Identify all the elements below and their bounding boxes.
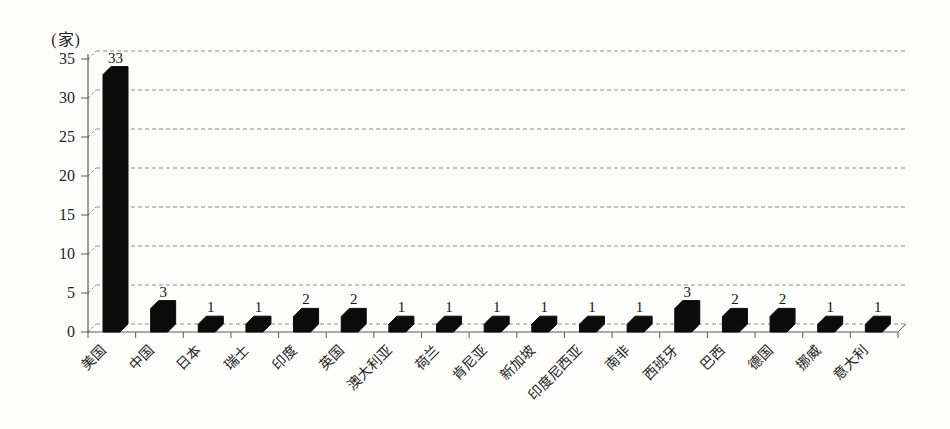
- bar-value-label: 1: [636, 299, 644, 315]
- bar-德国: [770, 308, 795, 332]
- bar-印度: [294, 308, 319, 332]
- bar-value-label: 1: [207, 299, 215, 315]
- x-axis-label: 英国: [316, 342, 347, 373]
- grid-depth-connector: [88, 207, 96, 215]
- x-axis-label: 澳大利亚: [345, 343, 395, 393]
- bar-value-label: 1: [588, 299, 596, 315]
- bar-意大利: [865, 316, 890, 332]
- x-axis-label: 日本: [174, 343, 204, 373]
- bar-value-label: 3: [159, 284, 167, 300]
- chart: 0510152025303533美国3中国1日本1瑞士2印度2英国1澳大利亚1荷…: [0, 0, 950, 429]
- grid-depth-connector: [88, 168, 96, 176]
- floor-right-edge: [898, 324, 906, 332]
- bar-value-label: 1: [255, 299, 263, 315]
- x-axis-label: 荷兰: [412, 343, 442, 373]
- y-axis-label: 0: [67, 323, 75, 340]
- x-axis-label: 美国: [79, 343, 109, 373]
- x-axis-label: 巴西: [698, 343, 728, 373]
- bar-value-label: 1: [398, 299, 406, 315]
- x-axis-label: 德国: [746, 343, 776, 373]
- y-axis-label: 20: [59, 167, 75, 184]
- grid-depth-connector: [88, 285, 96, 293]
- bar-value-label: 3: [684, 284, 692, 300]
- x-axis-label: 新加坡: [497, 343, 537, 383]
- y-axis-label: 30: [59, 89, 75, 106]
- bar-value-label: 2: [302, 291, 310, 307]
- grid-depth-connector: [88, 246, 96, 254]
- bar-印度尼西亚: [579, 316, 604, 332]
- bar-value-label: 1: [826, 299, 834, 315]
- bar-瑞士: [246, 316, 271, 332]
- bar-巴西: [722, 308, 747, 332]
- bar-中国: [151, 301, 176, 332]
- x-axis-label: 肯尼亚: [450, 343, 490, 383]
- bar-chart-canvas: 0510152025303533美国3中国1日本1瑞士2印度2英国1澳大利亚1荷…: [0, 0, 950, 429]
- x-axis-label: 南非: [603, 343, 633, 373]
- x-axis-label: 中国: [126, 343, 156, 373]
- bar-新加坡: [532, 316, 557, 332]
- x-axis-label: 西班牙: [640, 343, 680, 383]
- bar-value-label: 2: [350, 291, 358, 307]
- bar-澳大利亚: [389, 316, 414, 332]
- grid-depth-connector: [88, 90, 96, 98]
- bar-英国: [341, 308, 366, 332]
- bar-挪威: [818, 316, 843, 332]
- bar-value-label: 1: [493, 299, 501, 315]
- y-axis-label: 15: [59, 206, 75, 223]
- bar-西班牙: [675, 301, 700, 332]
- x-axis-label: 挪威: [793, 343, 823, 373]
- bar-荷兰: [437, 316, 462, 332]
- bar-value-label: 33: [108, 50, 123, 66]
- y-axis-label: 35: [59, 50, 75, 67]
- bar-value-label: 1: [541, 299, 549, 315]
- bar-日本: [198, 316, 223, 332]
- y-axis-label: 25: [59, 128, 75, 145]
- bar-value-label: 1: [874, 299, 882, 315]
- bar-肯尼亚: [484, 316, 509, 332]
- x-axis-label: 印度: [269, 343, 299, 373]
- bar-value-label: 1: [445, 299, 453, 315]
- x-axis-label: 意大利: [830, 342, 871, 383]
- bar-南非: [627, 316, 652, 332]
- grid-depth-connector: [88, 129, 96, 137]
- grid-depth-connector: [88, 324, 96, 332]
- bar-美国: [103, 67, 128, 332]
- x-axis-label: 瑞士: [221, 343, 251, 373]
- y-axis-label: 10: [59, 245, 75, 262]
- grid-depth-connector: [88, 51, 96, 59]
- y-axis-label: 5: [67, 284, 75, 301]
- bar-value-label: 2: [731, 291, 739, 307]
- bar-value-label: 2: [779, 291, 787, 307]
- y-axis-unit-label: (家): [36, 26, 96, 50]
